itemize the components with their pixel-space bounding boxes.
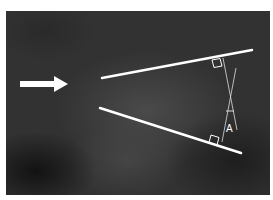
arrow-icon [20,76,68,92]
upper-right-angle-marker [212,59,222,68]
annotation-overlay: A [0,0,273,200]
upper-reference-line [102,50,252,78]
upper-perpendicular-line [223,58,237,130]
lower-reference-line [100,108,241,153]
angle-label: A [226,123,233,134]
